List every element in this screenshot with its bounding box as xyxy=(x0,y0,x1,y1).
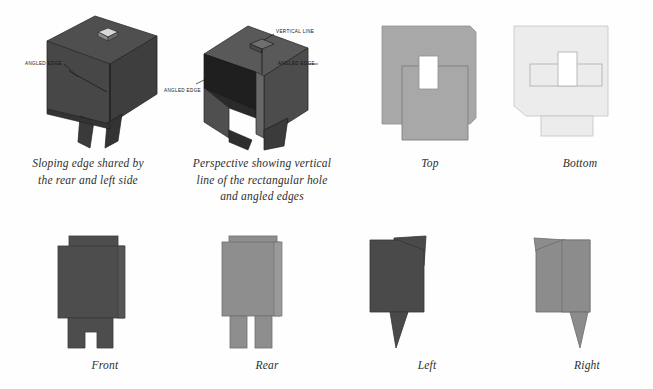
angled-edge-label: ANGLED EDGE xyxy=(25,61,62,66)
left-view-caption: Left xyxy=(382,357,472,374)
rear-view-svg xyxy=(214,232,324,350)
bottom-view-caption: Bottom xyxy=(540,155,620,172)
left-view xyxy=(368,232,478,350)
top-view-caption: Top xyxy=(390,155,470,172)
left-view-svg xyxy=(368,232,478,350)
right-view-caption: Right xyxy=(542,357,632,374)
perspective-2-caption: Perspective showing vertical line of the… xyxy=(176,155,348,205)
rear-view-caption: Rear xyxy=(222,357,312,374)
perspective-2-leaders xyxy=(196,18,346,150)
right-view xyxy=(530,232,640,350)
front-view xyxy=(56,232,166,350)
top-view xyxy=(378,18,482,144)
drawing-plate: ANGLED EDGE Sloping edge shared by the r… xyxy=(0,0,653,389)
rear-view xyxy=(214,232,324,350)
top-view-svg xyxy=(378,18,482,144)
right-view-svg xyxy=(530,232,640,350)
angled-edge-left-label: ANGLED EDGE xyxy=(164,88,201,93)
angled-edge-right-label: ANGLED EDGE xyxy=(278,61,315,66)
vertical-line-label: VERTICAL LINE xyxy=(276,29,314,34)
front-view-svg xyxy=(56,232,166,350)
perspective-view-2 xyxy=(196,18,336,150)
perspective-1-leader xyxy=(34,8,164,148)
bottom-view-svg xyxy=(508,20,618,144)
perspective-1-caption: Sloping edge shared by the rear and left… xyxy=(8,155,168,188)
perspective-view-1 xyxy=(34,8,164,148)
bottom-view xyxy=(508,20,618,144)
front-view-caption: Front xyxy=(60,357,150,374)
